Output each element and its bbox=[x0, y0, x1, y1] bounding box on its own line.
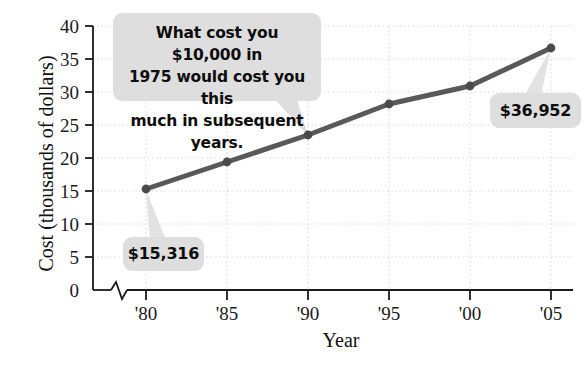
callout-line-1: What cost you $10,000 in bbox=[123, 22, 311, 66]
x-tick-label-05: '05 bbox=[528, 304, 574, 323]
x-tick-label-90: '90 bbox=[285, 304, 331, 323]
x-tick-label-95: '95 bbox=[366, 304, 412, 323]
data-point bbox=[466, 82, 475, 91]
y-axis-title: Cost (thousands of dollars) bbox=[35, 39, 58, 289]
data-label-2005: $36,952 bbox=[490, 93, 581, 128]
data-point bbox=[385, 100, 394, 109]
axis-break-zigzag bbox=[111, 282, 127, 299]
x-tick-label-85: '85 bbox=[204, 304, 250, 323]
data-point bbox=[142, 185, 151, 194]
x-tick-label-00: '00 bbox=[447, 304, 493, 323]
x-axis-ticks bbox=[146, 290, 551, 300]
callout-annotation: What cost you $10,000 in 1975 would cost… bbox=[113, 13, 321, 101]
y-tick-label-40: 40 bbox=[45, 17, 79, 36]
data-label-1980: $15,316 bbox=[123, 237, 204, 271]
x-axis-title: Year bbox=[281, 329, 401, 352]
y-axis-ticks bbox=[85, 26, 93, 257]
x-tick-label-80: '80 bbox=[123, 304, 169, 323]
cost-line-chart: 40 35 30 25 20 15 10 5 0 '80 '85 '90 '95… bbox=[0, 0, 587, 373]
label-1980-tail bbox=[146, 190, 166, 242]
data-point bbox=[223, 158, 232, 167]
callout-line-3: much in subsequent years. bbox=[123, 110, 311, 154]
data-point bbox=[547, 44, 556, 53]
callout-line-2: 1975 would cost you this bbox=[123, 66, 311, 110]
